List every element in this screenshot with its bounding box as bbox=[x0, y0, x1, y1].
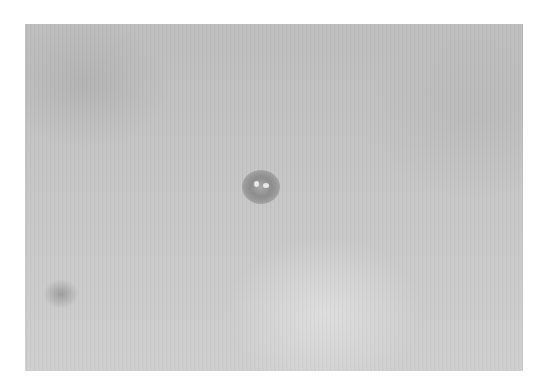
central-lesion bbox=[242, 170, 280, 204]
faint-spot bbox=[43, 279, 79, 309]
skin-photo: close-up of skin surface with a small ra… bbox=[25, 24, 523, 371]
